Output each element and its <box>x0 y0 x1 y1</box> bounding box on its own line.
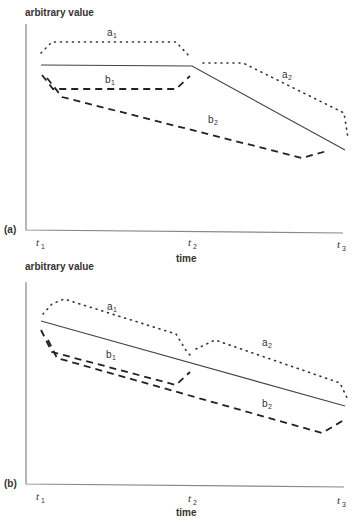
svg-text:1: 1 <box>112 354 116 361</box>
svg-text:2: 2 <box>193 499 197 506</box>
tick-t1: t 1 <box>36 236 45 250</box>
label-a2: a 2 <box>262 337 272 349</box>
curve-a2 <box>196 340 348 400</box>
tick-t2: t 2 <box>188 236 197 250</box>
curve-a1 <box>41 42 191 58</box>
label-a1: a 1 <box>107 301 117 313</box>
svg-text:2: 2 <box>268 342 272 349</box>
svg-text:t: t <box>36 490 40 502</box>
label-a1: a 1 <box>107 27 117 39</box>
label-a2: a 2 <box>282 69 292 81</box>
label-b1: b 1 <box>106 349 116 361</box>
panel-b: arbitrary value (b) t 1 t 2 t 3 time a 1 <box>4 261 348 518</box>
curve-b1 <box>42 75 190 89</box>
panel-a: arbitrary value (a) t 1 t 2 t 3 time a <box>4 7 348 264</box>
svg-text:2: 2 <box>214 119 218 126</box>
svg-text:1: 1 <box>113 32 117 39</box>
y-axis-label: arbitrary value <box>25 7 94 18</box>
svg-text:1: 1 <box>41 243 45 250</box>
tick-t2: t 2 <box>188 492 197 506</box>
svg-text:2: 2 <box>268 403 272 410</box>
label-b2: b 2 <box>262 398 272 410</box>
svg-text:2: 2 <box>193 243 197 250</box>
svg-text:t: t <box>337 238 341 250</box>
svg-text:3: 3 <box>342 245 346 252</box>
tick-t1: t 1 <box>36 490 45 504</box>
diagram-canvas: arbitrary value (a) t 1 t 2 t 3 time a <box>0 0 356 521</box>
svg-text:t: t <box>188 492 192 504</box>
solid-reference-line <box>41 321 345 406</box>
svg-text:1: 1 <box>41 497 45 504</box>
svg-text:3: 3 <box>342 501 346 508</box>
tick-t3: t 3 <box>337 238 346 252</box>
svg-text:t: t <box>337 494 341 506</box>
solid-reference-line <box>41 65 345 150</box>
panel-label: (a) <box>4 224 16 235</box>
svg-text:t: t <box>36 236 40 248</box>
svg-text:2: 2 <box>288 74 292 81</box>
y-axis-label: arbitrary value <box>25 261 94 272</box>
curve-b2 <box>48 340 344 433</box>
x-axis-label: time <box>176 253 197 264</box>
x-axis-label: time <box>176 507 197 518</box>
panel-label: (b) <box>4 478 17 489</box>
svg-text:1: 1 <box>111 79 115 86</box>
axes <box>26 282 344 487</box>
tick-t3: t 3 <box>337 494 346 508</box>
svg-text:t: t <box>188 236 192 248</box>
svg-text:1: 1 <box>113 306 117 313</box>
curve-b2 <box>47 78 327 158</box>
label-b2: b 2 <box>208 114 218 126</box>
curve-a2 <box>203 63 348 138</box>
label-b1: b 1 <box>105 74 115 86</box>
